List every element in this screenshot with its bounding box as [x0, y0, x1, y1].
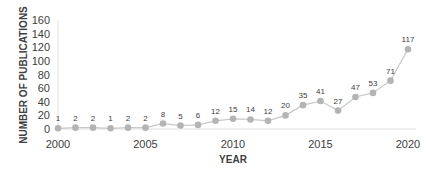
data-point: [352, 94, 359, 101]
x-tick-label: 2000: [46, 138, 70, 150]
y-tick-label: 80: [38, 69, 50, 81]
data-point: [160, 120, 167, 127]
data-point: [55, 125, 62, 132]
data-label: 71: [386, 67, 395, 76]
data-point: [387, 77, 394, 84]
publications-line-chart: NUMBER OF PUBLICATIONS 02040608010012014…: [0, 0, 435, 175]
x-tick-label: 2020: [396, 138, 420, 150]
data-point: [335, 107, 342, 114]
data-point: [300, 102, 307, 109]
data-label: 53: [369, 79, 378, 88]
data-label: 1: [108, 114, 113, 123]
y-tick-label: 40: [38, 96, 50, 108]
x-axis-ticks: 20002005201020152020: [46, 138, 420, 150]
y-tick-label: 0: [44, 123, 50, 135]
data-label: 27: [334, 97, 343, 106]
y-tick-label: 20: [38, 109, 50, 121]
data-point: [230, 115, 237, 122]
data-point: [142, 124, 149, 131]
x-axis-title: YEAR: [219, 154, 248, 165]
data-point: [72, 124, 79, 131]
data-label: 15: [229, 105, 238, 114]
data-label: 12: [211, 107, 220, 116]
y-tick-label: 140: [32, 28, 50, 40]
data-point: [247, 116, 254, 123]
y-tick-label: 120: [32, 41, 50, 53]
data-labels: 1221228561215141220354127475371117: [56, 35, 415, 123]
data-label: 20: [281, 101, 290, 110]
data-point: [370, 90, 377, 97]
y-tick-label: 100: [32, 55, 50, 67]
data-point: [265, 118, 272, 125]
data-point: [177, 122, 184, 129]
data-label: 41: [316, 87, 325, 96]
data-label: 35: [299, 91, 308, 100]
data-point: [195, 122, 202, 129]
x-tick-label: 2015: [308, 138, 332, 150]
data-label: 12: [264, 107, 273, 116]
data-label: 8: [161, 110, 166, 119]
data-label: 14: [246, 105, 255, 114]
data-label: 6: [196, 111, 201, 120]
y-tick-label: 60: [38, 82, 50, 94]
y-axis-ticks: 020406080100120140160: [32, 14, 50, 135]
data-point: [125, 124, 132, 131]
data-label: 2: [143, 114, 148, 123]
data-label: 2: [126, 114, 131, 123]
data-label: 2: [91, 114, 96, 123]
y-tick-label: 160: [32, 14, 50, 26]
y-axis-title: NUMBER OF PUBLICATIONS: [18, 6, 29, 144]
data-point: [282, 112, 289, 119]
x-tick-label: 2010: [221, 138, 245, 150]
data-label: 117: [402, 35, 415, 44]
data-point: [317, 98, 324, 105]
x-tick-label: 2005: [133, 138, 157, 150]
data-label: 1: [56, 114, 61, 123]
data-point: [212, 118, 219, 125]
data-label: 47: [351, 83, 360, 92]
data-label: 2: [73, 114, 78, 123]
data-point: [405, 46, 412, 53]
data-point: [107, 125, 114, 132]
data-point: [90, 124, 97, 131]
data-label: 5: [178, 112, 183, 121]
